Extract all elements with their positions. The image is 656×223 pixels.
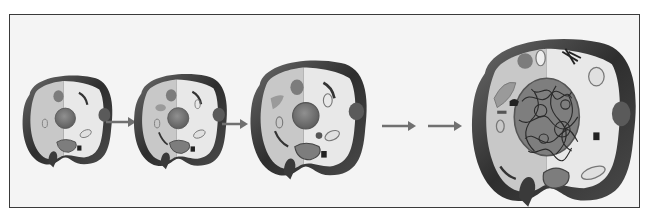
cell-stage-4 (472, 39, 636, 207)
cell-stage-3 (250, 61, 366, 180)
cell-stage-1 (23, 76, 113, 168)
arrow-icon (428, 121, 462, 131)
cell-stage-2 (134, 74, 227, 169)
arrow-icon (382, 121, 416, 131)
cell-growth-diagram (0, 0, 656, 223)
